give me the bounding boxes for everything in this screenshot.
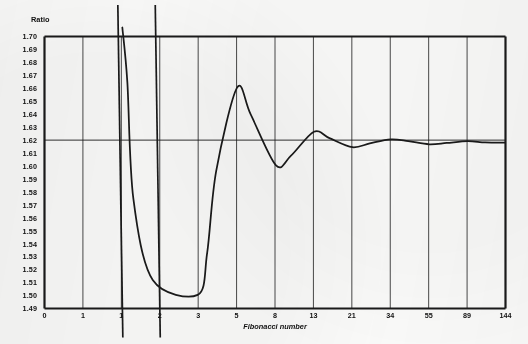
chart-figure: Ratio 1.701.691.681.671.661.651.641.631.… — [0, 0, 528, 344]
data-curve-fibonacci-ratio — [122, 28, 505, 297]
plot-canvas — [0, 0, 528, 344]
asymptote-line — [118, 5, 123, 338]
